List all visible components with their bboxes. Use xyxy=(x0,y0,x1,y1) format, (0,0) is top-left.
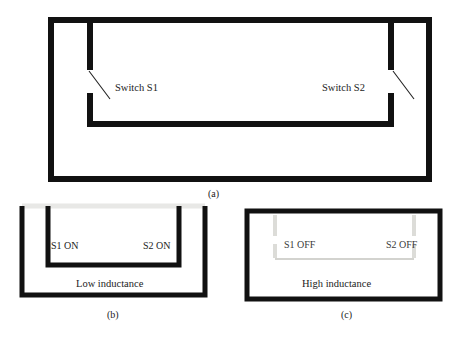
panel-a-outer-loop xyxy=(51,20,429,179)
panel-a-inner-u-lower xyxy=(90,93,391,124)
circuit-inductance-figure: Switch S1 Switch S2 (a) S1 ON S2 ON Low … xyxy=(0,0,475,344)
diagram-canvas xyxy=(0,0,475,344)
panel-c-inductance-label: High inductance xyxy=(302,279,371,290)
panel-b-switch2-state: S2 ON xyxy=(143,241,171,251)
panel-a-switch2-leader-line xyxy=(393,71,414,99)
panel-a-switch1-label: Switch S1 xyxy=(115,83,158,94)
panel-a-switch2-label: Switch S2 xyxy=(322,83,365,94)
panel-b-inductance-label: Low inductance xyxy=(76,279,143,290)
panel-a-graphics xyxy=(51,20,429,179)
panel-c-caption: (c) xyxy=(341,310,352,320)
panel-b-switch1-state: S1 ON xyxy=(51,241,79,251)
panel-c-switch1-state: S1 OFF xyxy=(284,240,315,250)
panel-c-switch2-state: S2 OFF xyxy=(386,240,417,250)
panel-a-caption: (a) xyxy=(208,189,219,199)
panel-b-inner-u xyxy=(48,206,179,265)
panel-b-caption: (b) xyxy=(107,310,119,320)
